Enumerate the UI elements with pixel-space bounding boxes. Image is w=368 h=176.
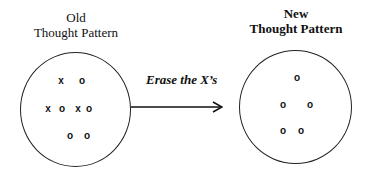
- old-pattern-title: Old Thought Pattern: [20, 10, 132, 40]
- x-mark: x: [58, 76, 64, 86]
- o-mark: o: [298, 126, 304, 136]
- o-mark: o: [84, 131, 90, 141]
- o-mark: o: [294, 73, 300, 83]
- new-title-line2: Thought Pattern: [240, 21, 352, 36]
- x-mark: x: [75, 104, 81, 114]
- new-pattern-circle: [239, 50, 352, 164]
- new-pattern-title: New Thought Pattern: [240, 6, 352, 36]
- o-mark: o: [280, 126, 286, 136]
- arrow-right-icon: [131, 101, 223, 113]
- o-mark: o: [280, 100, 286, 110]
- old-title-line2: Thought Pattern: [20, 25, 132, 40]
- transition-label: Erase the X’s: [146, 72, 217, 88]
- o-mark: o: [59, 104, 65, 114]
- x-mark: x: [45, 104, 51, 114]
- o-mark: o: [67, 131, 73, 141]
- o-mark: o: [307, 100, 313, 110]
- o-mark: o: [86, 104, 92, 114]
- o-mark: o: [79, 76, 85, 86]
- old-title-line1: Old: [20, 10, 132, 25]
- new-title-line1: New: [240, 6, 352, 21]
